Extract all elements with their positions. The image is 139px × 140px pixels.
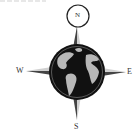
east-label: E bbox=[127, 68, 132, 76]
globe-icon bbox=[49, 44, 105, 100]
west-label: W bbox=[16, 67, 24, 75]
south-label: S bbox=[74, 123, 78, 131]
north-label: N bbox=[75, 12, 80, 19]
